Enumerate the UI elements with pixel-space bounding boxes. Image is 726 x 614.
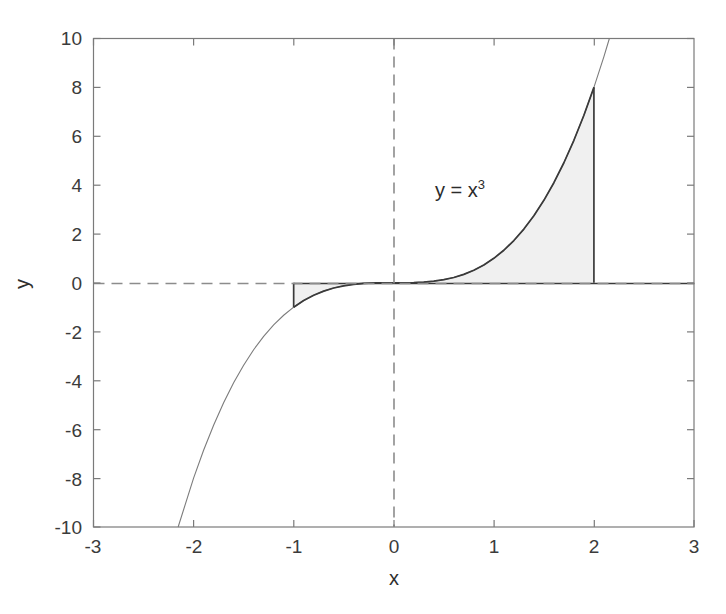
xtick-label-neg1: -1	[286, 537, 303, 556]
curve-equation-base: y = x	[435, 179, 478, 201]
curve-equation-exponent: 3	[478, 177, 485, 192]
ytick-label-0: 0	[38, 274, 82, 293]
ytick-label-neg10: -10	[38, 518, 82, 537]
xtick-label-3: 3	[689, 537, 700, 556]
ytick-label-neg8: -8	[38, 470, 82, 489]
ytick-label-4: 4	[38, 176, 82, 195]
ytick-label-neg6: -6	[38, 421, 82, 440]
plot-svg	[0, 0, 726, 614]
curve-equation-annotation: y = x3	[435, 180, 485, 200]
ytick-label-10: 10	[38, 29, 82, 48]
xtick-label-2: 2	[589, 537, 600, 556]
xtick-label-1: 1	[489, 537, 500, 556]
xtick-label-0: 0	[389, 537, 400, 556]
ytick-label-neg4: -4	[38, 372, 82, 391]
fill-region-positive	[394, 87, 594, 282]
x-axis-label: x	[389, 568, 399, 588]
ytick-label-8: 8	[38, 78, 82, 97]
xtick-label-neg3: -3	[85, 537, 102, 556]
xtick-label-neg2: -2	[186, 537, 203, 556]
ytick-label-2: 2	[38, 225, 82, 244]
y-axis-label: y	[12, 279, 32, 289]
ytick-label-neg2: -2	[38, 323, 82, 342]
figure-canvas: 10 8 6 4 2 0 -2 -4 -6 -8 -10 -3 -2 -1 0 …	[0, 0, 726, 614]
ytick-label-6: 6	[38, 127, 82, 146]
